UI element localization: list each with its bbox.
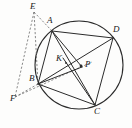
point-label-F: F (10, 94, 16, 103)
point-K-dot (65, 62, 67, 64)
point-label-A: A (47, 16, 53, 25)
geometry-figure: A D C B E F K P (0, 0, 132, 128)
geometry-canvas (0, 0, 132, 128)
segment-FB (15, 84, 38, 97)
chords-and-cevians (38, 31, 113, 105)
segment-AB (38, 31, 52, 84)
segment-EF (15, 12, 34, 97)
point-label-C: C (94, 107, 100, 116)
point-P-dot (80, 65, 83, 68)
point-label-D: D (113, 25, 120, 34)
point-label-B: B (29, 74, 35, 83)
segment-CD (95, 38, 113, 105)
point-label-K: K (56, 54, 62, 63)
segment-AD (52, 31, 113, 38)
point-label-P: P (85, 60, 91, 69)
point-label-E: E (30, 2, 36, 11)
